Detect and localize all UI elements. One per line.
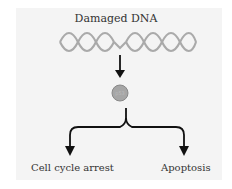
dna-helix-icon xyxy=(60,33,196,51)
diagram-title: Damaged DNA xyxy=(0,12,232,25)
outcome-cell-cycle-arrest: Cell cycle arrest xyxy=(31,162,114,173)
arrowhead-left-icon xyxy=(65,146,75,156)
outcome-apoptosis: Apoptosis xyxy=(161,162,211,173)
arrowhead-right-icon xyxy=(179,146,189,156)
branch-arrows-icon xyxy=(70,108,184,148)
down-arrow-icon xyxy=(115,55,125,78)
p53-label: p53 xyxy=(113,86,127,100)
